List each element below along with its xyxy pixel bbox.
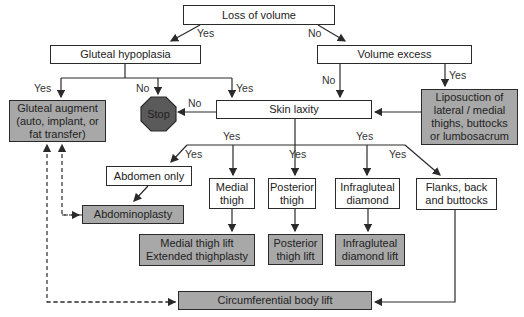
edge-label-hypo-no: No bbox=[136, 82, 149, 94]
edge-label-loss-yes: Yes bbox=[197, 27, 214, 39]
infragluteal-diamond-node: Infragluteal diamond bbox=[335, 178, 400, 209]
edge-label-laxity-no: No bbox=[188, 97, 201, 109]
circumferential-body-lift-node: Circumferential body lift bbox=[178, 291, 372, 310]
edge-label-excess-yes: Yes bbox=[449, 69, 466, 81]
edge-label-laxity-yes-right: Yes bbox=[356, 130, 373, 142]
posterior-thigh-node: Posterior thigh bbox=[268, 178, 316, 209]
posterior-thigh-lift-node: Posterior thigh lift bbox=[268, 234, 323, 265]
liposuction-node: Liposuction of lateral / medial thighs, … bbox=[421, 89, 518, 145]
edge-label-posterior-yes: Yes bbox=[289, 148, 306, 160]
edge-label-flanks-yes: Yes bbox=[389, 148, 406, 160]
gluteal-augment-node: Gluteal augment (auto, implant, or fat t… bbox=[9, 100, 106, 142]
edge-label-excess-no: No bbox=[322, 74, 335, 86]
edge-label-hypo-yes-left: Yes bbox=[34, 82, 51, 94]
gluteal-hypoplasia-node: Gluteal hypoplasia bbox=[50, 45, 201, 64]
flanks-back-buttocks-node: Flanks, back and buttocks bbox=[416, 178, 497, 210]
edge-label-hypo-yes-right: Yes bbox=[236, 82, 253, 94]
abdominoplasty-node: Abdominoplasty bbox=[82, 205, 184, 224]
medial-thigh-lift-node: Medial thigh lift Extended thighplasty bbox=[139, 234, 255, 266]
edge-label-loss-no: No bbox=[308, 27, 321, 39]
abdomen-only-node: Abdomen only bbox=[106, 166, 192, 186]
infragluteal-diamond-lift-node: Infragluteal diamond lift bbox=[335, 234, 405, 266]
medial-thigh-node: Medial thigh bbox=[209, 178, 255, 209]
edge-label-laxity-yes-left: Yes bbox=[223, 130, 240, 142]
stop-label: Stop bbox=[141, 97, 176, 131]
edge-label-abdomen-yes: Yes bbox=[185, 148, 202, 160]
skin-laxity-node: Skin laxity bbox=[216, 100, 372, 119]
loss-of-volume-node: Loss of volume bbox=[183, 5, 335, 25]
volume-excess-node: Volume excess bbox=[317, 45, 472, 64]
